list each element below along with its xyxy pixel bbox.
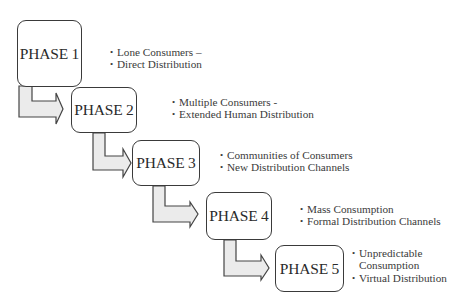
phase-3-bullets: Communities of Consumers New Distributio… <box>220 149 353 174</box>
phase-5-bullet-1: Unpredictable Consumption <box>352 247 449 272</box>
phase-2-bullets: Multiple Consumers - Extended Human Dist… <box>172 96 314 121</box>
phase-2-box: PHASE 2 <box>71 87 137 133</box>
phase-1-bullet-2: Direct Distribution <box>110 58 202 70</box>
phase-3-bullet-1: Communities of Consumers <box>220 149 353 161</box>
phase-5-bullet-2: Virtual Distribution <box>352 272 449 284</box>
phase-1-box: PHASE 1 <box>17 20 82 87</box>
phase-4-bullet-2: Formal Distribution Channels <box>300 215 441 227</box>
phase-2-bullet-2: Extended Human Distribution <box>172 108 314 120</box>
phase-4-box: PHASE 4 <box>206 192 272 240</box>
phase-2-bullet-1: Multiple Consumers - <box>172 96 314 108</box>
phase-5-label: PHASE 5 <box>280 260 339 278</box>
bent-arrow-1-to-2 <box>19 86 63 124</box>
bent-arrow-3-to-4 <box>153 186 198 227</box>
phase-4-bullet-1: Mass Consumption <box>300 203 441 215</box>
bent-arrow-2-to-3 <box>93 133 131 177</box>
phase-4-label: PHASE 4 <box>209 207 268 225</box>
phase-5-bullets: Unpredictable Consumption Virtual Distri… <box>352 247 449 284</box>
phase-1-label: PHASE 1 <box>20 45 79 63</box>
phase-1-bullet-1: Lone Consumers – <box>110 46 202 58</box>
phase-4-bullets: Mass Consumption Formal Distribution Cha… <box>300 203 441 228</box>
phase-1-bullets: Lone Consumers – Direct Distribution <box>110 46 202 71</box>
phase-3-box: PHASE 3 <box>132 140 200 186</box>
phase-5-box: PHASE 5 <box>275 245 344 292</box>
phase-2-label: PHASE 2 <box>74 101 133 119</box>
phase-3-bullet-2: New Distribution Channels <box>220 161 353 173</box>
phase-3-label: PHASE 3 <box>136 154 195 172</box>
bent-arrow-4-to-5 <box>224 240 269 280</box>
